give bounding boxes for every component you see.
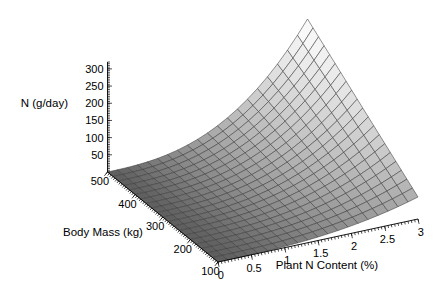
y-tick-label: 100 [201, 265, 219, 277]
z-tick-label: 250 [85, 80, 103, 92]
z-tick-label: 100 [85, 132, 103, 144]
surface-plot-canvas: 00.511.522.53500400300200100501001502002… [0, 0, 441, 294]
y-tick-label: 300 [146, 220, 164, 232]
x-tick-label: 3 [418, 226, 424, 238]
z-tick-label: 200 [85, 97, 103, 109]
x-tick-label: 1.5 [313, 247, 328, 259]
z-tick-label: 50 [91, 149, 103, 161]
surface-plot-figure: 00.511.522.53500400300200100501001502002… [0, 0, 441, 294]
x-tick-label: 2 [351, 240, 357, 252]
y-tick-label: 400 [118, 198, 136, 210]
x-tick-label: 0.5 [246, 262, 261, 274]
z-tick-label: 300 [85, 63, 103, 75]
z-tick-label: 150 [85, 114, 103, 126]
x-tick-label: 2.5 [380, 233, 395, 245]
x-axis-title: Plant N Content (%) [276, 259, 378, 271]
y-axis-title: Body Mass (kg) [63, 226, 143, 238]
y-tick-label: 200 [174, 243, 192, 255]
z-axis-title: N (g/day) [21, 97, 68, 109]
y-tick-label: 500 [91, 175, 109, 187]
